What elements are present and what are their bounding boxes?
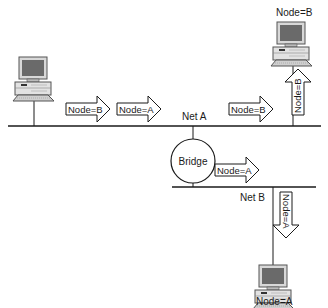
net-a-label: Net A [182, 111, 207, 122]
svg-text:Node=A: Node=A [281, 194, 292, 229]
node-b-computer-icon [271, 22, 312, 66]
node-a-label: Node=A [256, 296, 293, 307]
packet-arrow-2: Node=A [117, 96, 161, 122]
packet-arrow-3: Node=B [229, 96, 273, 122]
packet-arrow-5: Node=A [215, 157, 259, 183]
packet-arrow-4: Node=B [285, 69, 311, 115]
svg-text:Node=A: Node=A [217, 165, 252, 176]
source-computer-icon [13, 57, 54, 101]
packet-arrow-6: Node=A [273, 192, 299, 238]
svg-text:Node=B: Node=B [231, 104, 266, 115]
packet-arrow-1: Node=B [66, 96, 110, 122]
svg-text:Node=A: Node=A [119, 104, 154, 115]
svg-text:Node=B: Node=B [292, 78, 303, 113]
node-b-label: Node=B [276, 7, 313, 18]
bridge-label: Bridge [179, 156, 208, 167]
net-b-label: Net B [240, 192, 265, 203]
svg-text:Node=B: Node=B [68, 104, 103, 115]
